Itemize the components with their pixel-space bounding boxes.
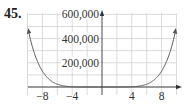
x-axis-arrow-icon: [176, 85, 182, 89]
x-tick-label: −8: [36, 90, 48, 102]
x-tick-label: −4: [66, 90, 78, 102]
y-tick-label: 200,000: [62, 57, 100, 70]
x-tick-label: 8: [159, 90, 165, 102]
axes: [28, 10, 182, 95]
y-axis-arrow-icon: [100, 10, 104, 16]
tick-labels: −8−448200,000400,000600,000: [36, 8, 164, 102]
chart: −8−448200,000400,000600,000: [0, 0, 185, 104]
x-tick-label: 4: [129, 90, 135, 102]
y-tick-label: 600,000: [62, 8, 100, 21]
y-tick-label: 400,000: [62, 33, 100, 46]
